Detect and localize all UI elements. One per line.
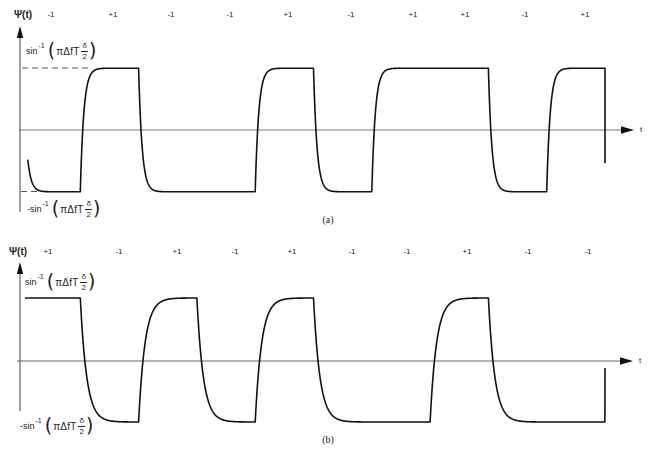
bit-label: -1: [47, 11, 54, 19]
x-axis-arrow-icon: [620, 357, 633, 364]
label-close-paren: ): [88, 272, 95, 291]
panel-caption: (a): [322, 215, 333, 225]
label-function: sin: [26, 46, 38, 56]
panel-a: [17, 26, 634, 212]
bit-label: -1: [584, 248, 591, 256]
bit-label: -1: [403, 248, 410, 256]
label-numerator: δ: [85, 200, 91, 210]
panel-caption: (b): [322, 435, 334, 445]
bit-label: -1: [167, 11, 174, 19]
label-open-paren: (: [52, 199, 59, 218]
label-open-paren: (: [48, 41, 55, 60]
label-argument: πΔfT: [60, 204, 83, 215]
y-axis-label: Ψ(t): [9, 247, 27, 257]
y-tick-label-low: - sin -1 ( πΔfT δ 2 ): [27, 198, 101, 220]
x-axis-label: t: [640, 126, 642, 134]
label-close-paren: ): [86, 416, 93, 435]
label-exponent: -1: [39, 42, 45, 49]
label-function: sin: [23, 421, 35, 431]
y-tick-label-low: - sin -1 ( πΔfT δ 2 ): [20, 415, 94, 437]
label-function: sin: [30, 204, 42, 214]
label-argument: πΔfT: [56, 46, 79, 57]
label-open-paren: (: [47, 272, 54, 291]
y-axis-label-text: Ψ(t): [14, 9, 32, 20]
bit-label: -1: [524, 248, 531, 256]
bit-label: +1: [580, 11, 589, 19]
bit-label: -1: [231, 248, 238, 256]
label-denominator: 2: [81, 283, 85, 292]
label-denominator: 2: [86, 210, 90, 219]
phase-waveform: [25, 298, 605, 422]
x-axis-arrow-icon: [621, 126, 634, 133]
label-fraction: δ 2: [85, 200, 91, 219]
figure: Ψ(t) -1 +1 -1 -1 +1 -1 +1 +1 -1 +1 sin -…: [0, 0, 651, 454]
bit-label: +1: [408, 11, 417, 19]
label-exponent: -1: [43, 200, 49, 207]
y-axis-label-text: Ψ(t): [9, 246, 27, 257]
bit-label: +1: [172, 248, 181, 256]
label-argument: πΔfT: [53, 421, 76, 432]
label-close-paren: ): [89, 41, 96, 60]
bit-label: +1: [283, 11, 292, 19]
label-argument: πΔfT: [55, 277, 78, 288]
bit-label: -1: [348, 248, 355, 256]
y-tick-label-high: sin -1 ( πΔfT δ 2 ): [26, 40, 97, 62]
label-fraction: δ 2: [80, 273, 86, 292]
plot-canvas: [0, 0, 651, 454]
label-numerator: δ: [80, 273, 86, 283]
label-exponent: -1: [36, 417, 42, 424]
bit-label: +1: [43, 248, 52, 256]
label-open-paren: (: [45, 416, 52, 435]
panel-b: [17, 262, 633, 422]
label-numerator: δ: [78, 417, 84, 427]
label-denominator: 2: [82, 52, 86, 61]
label-numerator: δ: [81, 42, 87, 52]
bit-label: -1: [521, 11, 528, 19]
bit-label: +1: [108, 11, 117, 19]
label-function: sin: [25, 277, 37, 287]
bit-label: -1: [226, 11, 233, 19]
y-axis-arrow-icon: [17, 262, 23, 274]
bit-label: +1: [460, 11, 469, 19]
bit-label: +1: [462, 248, 471, 256]
x-axis-label: t: [639, 357, 641, 365]
label-denominator: 2: [79, 427, 83, 436]
y-axis-label: Ψ(t): [14, 10, 32, 20]
label-fraction: δ 2: [78, 417, 84, 436]
bit-label: -1: [115, 248, 122, 256]
y-tick-label-high: sin -1 ( πΔfT δ 2 ): [25, 271, 96, 293]
bit-label: -1: [347, 11, 354, 19]
label-fraction: δ 2: [81, 42, 87, 61]
bit-label: +1: [287, 248, 296, 256]
label-close-paren: ): [93, 199, 100, 218]
label-exponent: -1: [38, 273, 44, 280]
y-axis-arrow-icon: [17, 26, 23, 38]
